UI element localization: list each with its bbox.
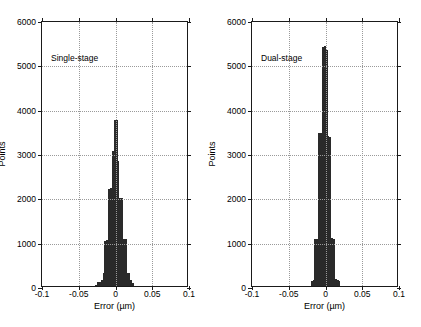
x-axis-tick-top (362, 18, 363, 22)
y-axis-tick-right (397, 155, 401, 156)
y-axis-tick-right (187, 155, 191, 156)
y-axis-tick (248, 155, 252, 156)
plot-area-dual-stage: Dual-stage -0.1-0.0500.050.1010002000300… (251, 21, 398, 287)
y-axis-tick-right (397, 288, 401, 289)
y-axis-tick-label: 6000 (227, 18, 246, 27)
x-axis-tick-top (152, 18, 153, 22)
x-axis-tick-top (252, 18, 253, 22)
histogram-bar (338, 281, 340, 286)
y-axis-title-left: Points (0, 141, 7, 166)
y-axis-tick-right (397, 22, 401, 23)
y-axis-tick-label: 5000 (227, 62, 246, 71)
annotation-dual-stage: Dual-stage (261, 54, 302, 63)
y-axis-tick (38, 66, 42, 67)
y-axis-tick-right (187, 111, 191, 112)
y-axis-tick-label: 6000 (17, 18, 36, 27)
x-axis-tick-label: 0.1 (393, 290, 405, 299)
y-axis-tick (248, 288, 252, 289)
y-axis-tick-label: 3000 (227, 151, 246, 160)
y-axis-tick (38, 155, 42, 156)
y-axis-tick-right (397, 199, 401, 200)
y-axis-tick-label: 2000 (227, 195, 246, 204)
y-axis-tick-right (187, 66, 191, 67)
y-axis-tick (38, 199, 42, 200)
plot-area-single-stage: Single-stage -0.1-0.0500.050.10100020003… (41, 21, 188, 287)
y-axis-tick (38, 22, 42, 23)
y-axis-tick-right (397, 66, 401, 67)
y-axis-tick-label: 3000 (17, 151, 36, 160)
y-axis-tick-right (397, 244, 401, 245)
y-axis-tick-right (187, 199, 191, 200)
x-axis-tick-label: -0.05 (279, 290, 298, 299)
y-axis-tick-right (187, 244, 191, 245)
y-axis-tick (248, 111, 252, 112)
y-axis-tick (248, 22, 252, 23)
y-axis-tick (248, 244, 252, 245)
y-axis-tick-right (397, 111, 401, 112)
annotation-single-stage: Single-stage (51, 54, 98, 63)
x-axis-title-left: Error (µm) (41, 302, 188, 311)
y-axis-tick (248, 66, 252, 67)
y-axis-tick-label: 1000 (227, 239, 246, 248)
y-axis-tick (248, 199, 252, 200)
y-axis-tick (38, 244, 42, 245)
y-axis-tick-label: 2000 (17, 195, 36, 204)
x-axis-tick-top (116, 18, 117, 22)
y-axis-tick-label: 4000 (227, 106, 246, 115)
y-axis-tick-label: 4000 (17, 106, 36, 115)
x-axis-tick-top (289, 18, 290, 22)
y-axis-tick-label: 0 (241, 284, 246, 293)
y-axis-tick-label: 0 (31, 284, 36, 293)
x-axis-tick-top (79, 18, 80, 22)
x-axis-tick-label: 0.05 (354, 290, 371, 299)
x-axis-title-right: Error (µm) (251, 302, 398, 311)
y-axis-tick-right (187, 22, 191, 23)
figure-histograms: Points Error (µm) Single-stage -0.1-0.05… (0, 0, 421, 327)
x-axis-tick-top (42, 18, 43, 22)
x-axis-tick-label: -0.1 (35, 290, 50, 299)
y-axis-tick-label: 1000 (17, 239, 36, 248)
x-axis-tick-label: 0 (113, 290, 118, 299)
x-axis-tick-label: 0.05 (144, 290, 161, 299)
y-axis-title-right: Points (208, 141, 217, 166)
histogram-bar (132, 283, 134, 286)
panel-dual-stage: Points Error (µm) Dual-stage -0.1-0.0500… (210, 0, 420, 327)
x-axis-tick-label: 0 (323, 290, 328, 299)
panel-single-stage: Points Error (µm) Single-stage -0.1-0.05… (0, 0, 210, 327)
y-axis-tick (38, 111, 42, 112)
x-axis-tick-label: -0.05 (69, 290, 88, 299)
y-axis-tick-right (187, 288, 191, 289)
y-axis-tick-label: 5000 (17, 62, 36, 71)
x-axis-tick-label: 0.1 (183, 290, 195, 299)
y-axis-tick (38, 288, 42, 289)
x-axis-tick-top (326, 18, 327, 22)
x-axis-tick-label: -0.1 (245, 290, 260, 299)
